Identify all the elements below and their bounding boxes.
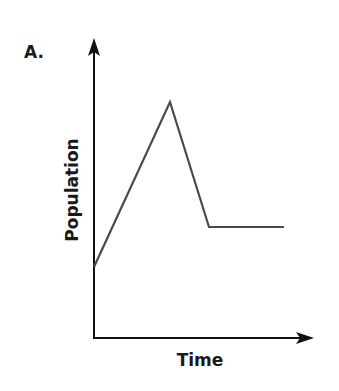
y-axis-label: Population (62, 138, 82, 241)
x-axis-label: Time (177, 350, 224, 370)
population-line (94, 102, 284, 267)
panel-label: A. (24, 42, 44, 62)
population-chart: A. Time Population (0, 0, 339, 391)
